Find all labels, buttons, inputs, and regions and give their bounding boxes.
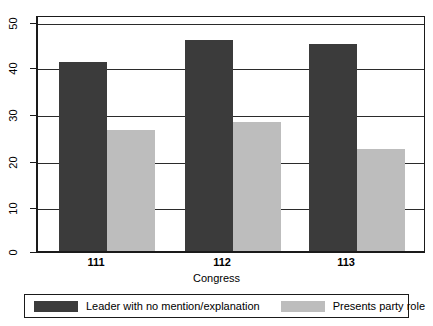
bar-113-leader-no-mention bbox=[309, 44, 357, 251]
bar-112-leader-no-mention bbox=[185, 40, 233, 251]
legend-label-presents-party-role: Presents party role bbox=[333, 300, 425, 312]
y-tick-label-40: 40 bbox=[8, 58, 19, 80]
y-tick-50 bbox=[30, 23, 36, 24]
x-axis-title: Congress bbox=[0, 272, 433, 285]
legend-swatch-dark-icon bbox=[34, 301, 78, 312]
y-tick-40 bbox=[30, 68, 36, 69]
bar-113-presents-party-role bbox=[357, 149, 405, 251]
y-tick-label-0: 0 bbox=[8, 242, 19, 264]
bar-chart-figure: 50 40 30 20 10 0 111 112 113 Congress Le… bbox=[0, 0, 433, 326]
bar-111-leader-no-mention bbox=[59, 62, 107, 251]
legend-swatch-light-icon bbox=[281, 301, 325, 312]
y-tick-30 bbox=[30, 115, 36, 116]
y-tick-label-50: 50 bbox=[8, 13, 19, 35]
y-tick-label-20: 20 bbox=[8, 152, 19, 174]
y-axis-line bbox=[36, 16, 37, 253]
legend-entry-presents-party-role: Presents party role bbox=[281, 295, 425, 317]
bar-111-presents-party-role bbox=[107, 130, 155, 251]
x-tick-label-113: 113 bbox=[300, 256, 392, 269]
bars-layer bbox=[37, 16, 424, 251]
legend-entry-leader-no-mention: Leader with no mention/explanation bbox=[34, 295, 260, 317]
y-tick-label-30: 30 bbox=[8, 105, 19, 127]
y-tick-10 bbox=[30, 208, 36, 209]
bar-112-presents-party-role bbox=[233, 122, 281, 251]
chart-legend: Leader with no mention/explanation Prese… bbox=[24, 294, 409, 318]
y-tick-label-10: 10 bbox=[8, 198, 19, 220]
x-axis-line bbox=[36, 252, 425, 253]
y-tick-20 bbox=[30, 162, 36, 163]
x-tick-label-111: 111 bbox=[50, 256, 142, 269]
x-tick-label-112: 112 bbox=[176, 256, 268, 269]
legend-label-leader-no-mention: Leader with no mention/explanation bbox=[86, 300, 260, 312]
